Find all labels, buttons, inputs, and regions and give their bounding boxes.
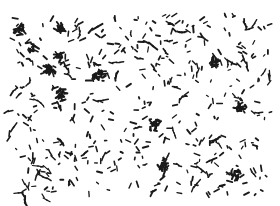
microscopy-image	[0, 0, 280, 206]
particle-field	[0, 0, 280, 206]
